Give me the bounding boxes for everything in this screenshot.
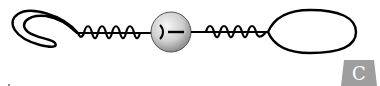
hook-loop xyxy=(13,11,78,47)
construct-diagram xyxy=(0,0,380,86)
badge-label: C xyxy=(341,60,377,86)
spring-linker-right xyxy=(191,26,268,37)
copyright-badge: C xyxy=(341,60,377,86)
sphere xyxy=(151,12,191,52)
spring-linker-left xyxy=(76,26,160,38)
stray-dot xyxy=(8,84,10,86)
oval-loop xyxy=(268,10,356,53)
